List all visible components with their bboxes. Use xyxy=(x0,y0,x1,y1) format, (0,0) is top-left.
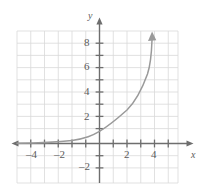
x-tick-label-minus-2: –2 xyxy=(54,149,65,160)
y-axis-arrow-up xyxy=(96,18,102,25)
x-tick-label-4: 4 xyxy=(151,149,157,160)
y-axis-label: y xyxy=(88,11,92,21)
coordinate-plane xyxy=(0,0,201,192)
graph-figure: 8 6 4 2 –2 –4 –2 2 4 y x xyxy=(0,0,201,192)
y-tick-label-6: 6 xyxy=(84,61,90,72)
y-tick-label-8: 8 xyxy=(84,37,90,48)
grid-horizontal-lines xyxy=(17,31,178,183)
x-axis xyxy=(12,141,194,147)
curve-arrowhead xyxy=(148,32,156,42)
y-axis xyxy=(96,18,102,184)
x-axis-label: x xyxy=(191,150,195,160)
x-tick-label-2: 2 xyxy=(124,149,130,160)
y-tick-label-minus-2: –2 xyxy=(79,161,90,172)
x-tick-label-minus-4: –4 xyxy=(26,149,37,160)
y-tick-label-2: 2 xyxy=(84,111,90,122)
y-tick-label-4: 4 xyxy=(84,86,90,97)
x-axis-arrow-right xyxy=(187,141,194,147)
grid-vertical-lines xyxy=(17,31,178,183)
